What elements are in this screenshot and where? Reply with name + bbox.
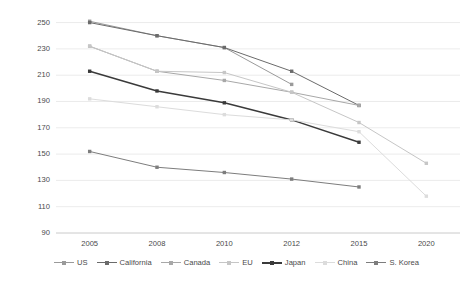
legend-swatch-icon [97,258,117,267]
grid-lines [56,23,460,233]
y-tick-150: 150 [22,149,50,158]
x-tick-2015: 2015 [339,239,379,248]
co2-emissions-line-chart: Grams CO₂ per km normalized to NEDC test… [0,0,473,283]
series-s-korea [88,150,361,189]
y-tick-190: 190 [22,96,50,105]
legend-swatch-icon [161,258,181,267]
x-tick-2012: 2012 [272,239,312,248]
legend-swatch-icon [366,258,386,267]
legend-item-japan[interactable]: Japan [262,258,306,267]
legend-swatch-icon [54,258,74,267]
y-tick-130: 130 [22,175,50,184]
series-china [88,97,428,198]
x-tick-2008: 2008 [137,239,177,248]
legend-label: US [76,258,88,267]
legend-swatch-icon [315,258,335,267]
y-tick-170: 170 [22,123,50,132]
legend-item-us[interactable]: US [54,258,88,267]
legend-label: Canada [183,258,211,267]
legend-swatch-icon [262,258,282,267]
legend-label: S. Korea [388,258,419,267]
legend-swatch-icon [219,258,239,267]
legend-item-china[interactable]: China [315,258,358,267]
y-tick-110: 110 [22,202,50,211]
legend-item-canada[interactable]: Canada [161,258,211,267]
chart-legend: USCaliforniaCanadaEUJapanChinaS. Korea [0,258,473,267]
y-tick-230: 230 [22,44,50,53]
x-tick-2010: 2010 [204,239,244,248]
legend-label: Japan [284,258,306,267]
y-tick-90: 90 [22,228,50,237]
legend-item-s-korea[interactable]: S. Korea [366,258,419,267]
legend-label: China [337,258,358,267]
legend-item-california[interactable]: California [97,258,152,267]
y-tick-210: 210 [22,70,50,79]
y-tick-250: 250 [22,18,50,27]
legend-label: EU [241,258,253,267]
x-tick-2020: 2020 [406,239,446,248]
series-california [88,21,361,107]
series-canada [88,45,361,108]
x-tick-2005: 2005 [70,239,110,248]
legend-item-eu[interactable]: EU [219,258,253,267]
legend-label: California [119,258,152,267]
